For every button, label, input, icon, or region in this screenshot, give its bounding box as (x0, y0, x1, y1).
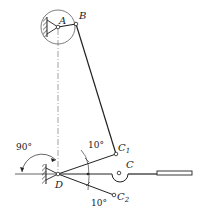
rocker-DC2 (58, 174, 114, 195)
label-C: C (126, 159, 134, 170)
label-C1: C1 (118, 142, 130, 155)
joint-C2 (112, 193, 116, 197)
angle-arc-90 (22, 154, 56, 172)
ground-support-A (43, 17, 58, 37)
rocker-DC1 (58, 154, 116, 174)
label-B: B (78, 10, 86, 21)
link-BC (76, 24, 116, 154)
joint-B (74, 22, 78, 26)
joint-D (56, 172, 60, 176)
label-angle-lower: 10° (91, 198, 107, 208)
arrowhead-90-left (20, 167, 24, 172)
label-D: D (54, 179, 63, 190)
label-angle-upper: 10° (88, 140, 104, 150)
label-angle-90: 90° (16, 142, 32, 152)
mid-mark (87, 173, 90, 176)
joint-C (117, 171, 121, 175)
output-slider (157, 171, 192, 175)
linkage-diagram: A B D C C1 C2 90° 10° 10° (0, 0, 206, 220)
label-A: A (58, 15, 66, 26)
label-C2: C2 (117, 191, 130, 204)
joint-C-bearing (112, 174, 128, 182)
arrowhead-90-top (51, 158, 56, 162)
